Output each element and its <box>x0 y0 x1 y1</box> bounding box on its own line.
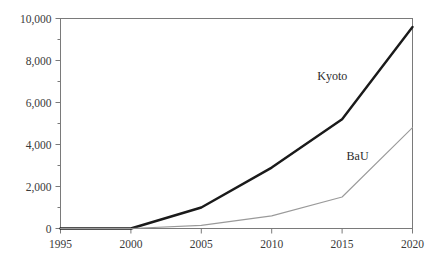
plot-area-border <box>61 19 413 229</box>
y-axis-tick-labels: 02,0004,0006,0008,00010,000 <box>20 13 52 235</box>
x-tick-label: 2015 <box>331 238 354 250</box>
series-line-bau <box>61 128 413 229</box>
x-tick-label: 2000 <box>119 238 142 250</box>
x-tick-label: 2005 <box>190 238 213 250</box>
x-tick-label: 1995 <box>49 238 72 250</box>
series-line-kyoto <box>61 27 413 229</box>
y-tick-label: 0 <box>46 223 52 235</box>
data-series-group <box>61 27 413 229</box>
y-tick-label: 4,000 <box>26 139 52 152</box>
y-tick-label: 8,000 <box>26 55 52 68</box>
x-tick-label: 2020 <box>401 238 424 250</box>
y-tick-label: 6,000 <box>26 97 52 110</box>
x-axis-tick-labels: 199520002005201020152020 <box>49 238 424 250</box>
chart-container: 02,0004,0006,0008,00010,000 199520002005… <box>0 0 433 265</box>
line-chart: 02,0004,0006,0008,00010,000 199520002005… <box>0 0 433 265</box>
series-label-kyoto: Kyoto <box>317 69 347 83</box>
y-tick-label: 10,000 <box>20 13 52 26</box>
y-tick-label: 2,000 <box>26 181 52 194</box>
series-label-bau: BaU <box>347 149 369 163</box>
x-tick-label: 2010 <box>260 238 283 250</box>
plot-frame <box>61 19 413 229</box>
